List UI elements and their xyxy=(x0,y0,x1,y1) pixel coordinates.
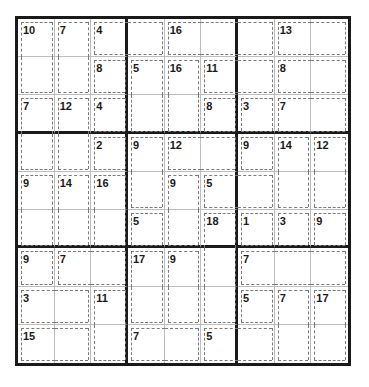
cell-r5c5[interactable] xyxy=(201,210,238,248)
cell-r8c5[interactable] xyxy=(201,325,238,363)
cell-r8c6[interactable] xyxy=(238,325,275,363)
cell-r4c1[interactable] xyxy=(55,172,92,210)
cell-r6c1[interactable] xyxy=(55,248,92,286)
cell-r6c8[interactable] xyxy=(311,248,348,286)
cell-r8c2[interactable] xyxy=(91,325,128,363)
cell-r3c2[interactable] xyxy=(91,134,128,172)
cell-r4c0[interactable] xyxy=(18,172,55,210)
cell-r7c6[interactable] xyxy=(238,287,275,325)
cell-r7c4[interactable] xyxy=(165,287,202,325)
cell-r6c7[interactable] xyxy=(275,248,312,286)
cell-r6c3[interactable] xyxy=(128,248,165,286)
cell-r6c0[interactable] xyxy=(18,248,55,286)
cell-r2c3[interactable] xyxy=(128,95,165,133)
cell-r3c4[interactable] xyxy=(165,134,202,172)
cell-r1c0[interactable] xyxy=(18,57,55,95)
cell-r8c1[interactable] xyxy=(55,325,92,363)
cell-r5c3[interactable] xyxy=(128,210,165,248)
cell-r6c4[interactable] xyxy=(165,248,202,286)
cell-r8c8[interactable] xyxy=(311,325,348,363)
cell-r0c3[interactable] xyxy=(128,19,165,57)
cell-r1c5[interactable] xyxy=(201,57,238,95)
cell-r5c6[interactable] xyxy=(238,210,275,248)
cell-r0c0[interactable] xyxy=(18,19,55,57)
cell-r5c8[interactable] xyxy=(311,210,348,248)
cell-r1c2[interactable] xyxy=(91,57,128,95)
cell-r1c3[interactable] xyxy=(128,57,165,95)
cell-r7c7[interactable] xyxy=(275,287,312,325)
cell-r2c2[interactable] xyxy=(91,95,128,133)
cell-r4c3[interactable] xyxy=(128,172,165,210)
cell-r4c8[interactable] xyxy=(311,172,348,210)
cell-r5c0[interactable] xyxy=(18,210,55,248)
cell-r4c4[interactable] xyxy=(165,172,202,210)
cell-r4c2[interactable] xyxy=(91,172,128,210)
cell-r3c0[interactable] xyxy=(18,134,55,172)
cell-r5c4[interactable] xyxy=(165,210,202,248)
cell-r5c7[interactable] xyxy=(275,210,312,248)
cell-r0c7[interactable] xyxy=(275,19,312,57)
cell-r4c6[interactable] xyxy=(238,172,275,210)
cell-r7c3[interactable] xyxy=(128,287,165,325)
cell-r2c0[interactable] xyxy=(18,95,55,133)
cell-r3c6[interactable] xyxy=(238,134,275,172)
cell-r7c2[interactable] xyxy=(91,287,128,325)
cell-r6c5[interactable] xyxy=(201,248,238,286)
cell-r2c5[interactable] xyxy=(201,95,238,133)
cell-r2c7[interactable] xyxy=(275,95,312,133)
cell-r1c7[interactable] xyxy=(275,57,312,95)
cell-r4c5[interactable] xyxy=(201,172,238,210)
cell-r3c3[interactable] xyxy=(128,134,165,172)
cell-r7c1[interactable] xyxy=(55,287,92,325)
cell-r8c0[interactable] xyxy=(18,325,55,363)
cell-r0c2[interactable] xyxy=(91,19,128,57)
cell-r5c1[interactable] xyxy=(55,210,92,248)
cell-r0c5[interactable] xyxy=(201,19,238,57)
cell-r2c8[interactable] xyxy=(311,95,348,133)
cell-r5c2[interactable] xyxy=(91,210,128,248)
cell-r2c6[interactable] xyxy=(238,95,275,133)
cell-r1c4[interactable] xyxy=(165,57,202,95)
cell-r1c6[interactable] xyxy=(238,57,275,95)
cell-r1c8[interactable] xyxy=(311,57,348,95)
cell-r8c3[interactable] xyxy=(128,325,165,363)
cell-r7c8[interactable] xyxy=(311,287,348,325)
cell-r8c4[interactable] xyxy=(165,325,202,363)
cell-r0c4[interactable] xyxy=(165,19,202,57)
cell-r0c6[interactable] xyxy=(238,19,275,57)
cell-r0c1[interactable] xyxy=(55,19,92,57)
cell-r6c6[interactable] xyxy=(238,248,275,286)
cell-r8c7[interactable] xyxy=(275,325,312,363)
cell-r4c7[interactable] xyxy=(275,172,312,210)
cell-r3c5[interactable] xyxy=(201,134,238,172)
cell-r2c4[interactable] xyxy=(165,95,202,133)
cell-r3c7[interactable] xyxy=(275,134,312,172)
cell-r1c1[interactable] xyxy=(55,57,92,95)
cell-r3c1[interactable] xyxy=(55,134,92,172)
killer-sudoku-board: 1074161385161187124837291291412914169551… xyxy=(15,16,351,366)
cell-r0c8[interactable] xyxy=(311,19,348,57)
cell-r7c0[interactable] xyxy=(18,287,55,325)
cell-r6c2[interactable] xyxy=(91,248,128,286)
cell-r7c5[interactable] xyxy=(201,287,238,325)
cell-r3c8[interactable] xyxy=(311,134,348,172)
cell-r2c1[interactable] xyxy=(55,95,92,133)
